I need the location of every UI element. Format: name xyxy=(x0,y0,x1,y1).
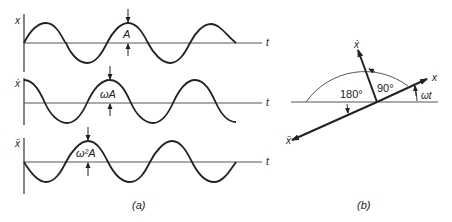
angle-180-label: 180° xyxy=(340,88,363,100)
caption-a: (a) xyxy=(132,199,146,211)
xddot-vector xyxy=(292,102,377,140)
xdot-vector-label: ẋ xyxy=(353,39,360,50)
t-axis-label: t xyxy=(266,156,270,167)
amplitude-label: A xyxy=(122,28,130,40)
omega-t-label: ωt xyxy=(421,90,433,101)
amplitude-label: ωA xyxy=(100,88,116,100)
plot-velocity: ẋ ωA t xyxy=(14,66,270,125)
phasor-diagram: x ẋ ẍ 90° 180° ωt xyxy=(285,39,438,146)
caption-b: (b) xyxy=(357,199,371,211)
plot-acceleration: ẍ ω²A t xyxy=(14,127,270,194)
t-axis-label: t xyxy=(266,97,270,108)
y-axis-label: ẍ xyxy=(14,138,21,149)
xddot-vector-label: ẍ xyxy=(285,135,292,146)
plot-displacement: x A t xyxy=(14,9,270,72)
amplitude-label: ω²A xyxy=(76,147,96,159)
t-axis-label: t xyxy=(266,37,270,48)
velocity-wave xyxy=(24,80,236,123)
y-axis-label: x xyxy=(14,15,21,26)
x-vector-label: x xyxy=(431,72,438,83)
figure-canvas: x A t ẋ ωA t ẍ ω²A t (a) xyxy=(0,0,452,222)
angle-90-label: 90° xyxy=(377,82,394,94)
y-axis-label: ẋ xyxy=(14,78,21,89)
